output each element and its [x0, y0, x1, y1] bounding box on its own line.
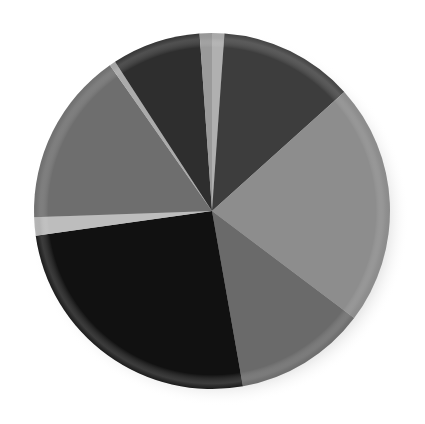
pie-rim-highlight: [34, 33, 390, 389]
pie-chart: [0, 0, 425, 424]
pie-chart-canvas: [0, 0, 425, 424]
chart-page: [0, 0, 425, 424]
